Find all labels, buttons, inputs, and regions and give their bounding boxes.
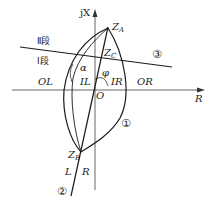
curve-3-marker: ③	[152, 49, 162, 60]
zone-or-label: OR	[137, 77, 153, 87]
point-zc-label: ZC	[104, 48, 116, 60]
jx-axis-arrow-icon	[93, 9, 98, 17]
point-za-label: ZA	[112, 22, 124, 34]
origin-label: O	[96, 91, 104, 101]
rx-diagram	[0, 0, 215, 210]
curve-2-marker: ②	[57, 186, 67, 197]
stage-1-label: Ⅰ段	[37, 57, 49, 66]
jx-axis-label: jX	[80, 8, 90, 18]
r-axis-arrow-icon	[197, 88, 205, 93]
zone-ol-label: OL	[38, 77, 53, 87]
r-axis-label: R	[195, 94, 203, 104]
point-zb-label: ZB	[68, 150, 80, 162]
alpha-label: α	[80, 63, 87, 73]
curve-1-marker: ①	[121, 118, 131, 129]
zone-ir-label: IR	[111, 77, 122, 87]
zone-il-label: IL	[80, 77, 91, 87]
stage-2-label: Ⅱ段	[37, 37, 50, 46]
zone-l-label: L	[65, 167, 72, 177]
zone-r-label: R	[82, 167, 90, 177]
phi-label: φ	[102, 68, 109, 78]
